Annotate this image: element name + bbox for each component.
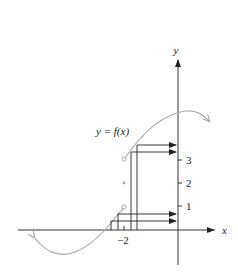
function-graph: y x 3 2 1 −2 y = f(x) — [0, 0, 238, 277]
curve-right-branch — [125, 111, 209, 158]
y-ticks — [178, 160, 182, 206]
y-axis-label: y — [173, 44, 179, 56]
function-label: y = f(x) — [95, 125, 129, 138]
curve-left-branch — [34, 209, 124, 255]
x-axis-label: x — [221, 224, 227, 236]
y-tick-label-1: 1 — [186, 200, 192, 212]
y-tick-label-3: 3 — [186, 154, 192, 166]
construction-lines-upper — [131, 145, 176, 230]
y-tick-label-2: 2 — [186, 177, 192, 189]
open-point-upper — [122, 157, 126, 161]
open-point-lower — [122, 205, 126, 209]
construction-lines-lower — [111, 214, 176, 230]
x-tick-label-minus-2: −2 — [117, 234, 129, 246]
filled-point — [123, 182, 126, 185]
